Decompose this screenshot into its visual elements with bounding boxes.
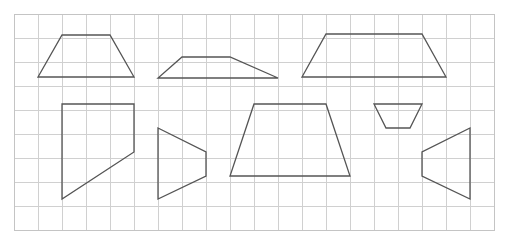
shape-quadrilateral-4 xyxy=(62,104,134,199)
grid-lines-group xyxy=(15,15,495,231)
worksheet-canvas xyxy=(0,0,510,231)
grid-and-shapes-figure xyxy=(0,0,510,231)
shape-trapezoid-2 xyxy=(158,57,278,78)
shape-trapezoid-6 xyxy=(230,104,350,176)
